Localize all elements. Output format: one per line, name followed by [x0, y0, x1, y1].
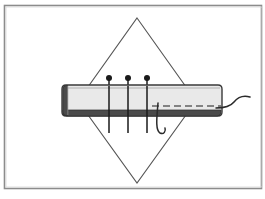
figure-screenshot: Sewing technique illustration: pinned fa… [0, 0, 265, 199]
sewing-illustration [0, 0, 265, 199]
pin-head-2 [125, 75, 131, 81]
pin-head-3 [144, 75, 150, 81]
fabric-left-end-cap [63, 86, 68, 116]
fabric-bottom-edge [63, 110, 221, 116]
pin-head-1 [106, 75, 112, 81]
